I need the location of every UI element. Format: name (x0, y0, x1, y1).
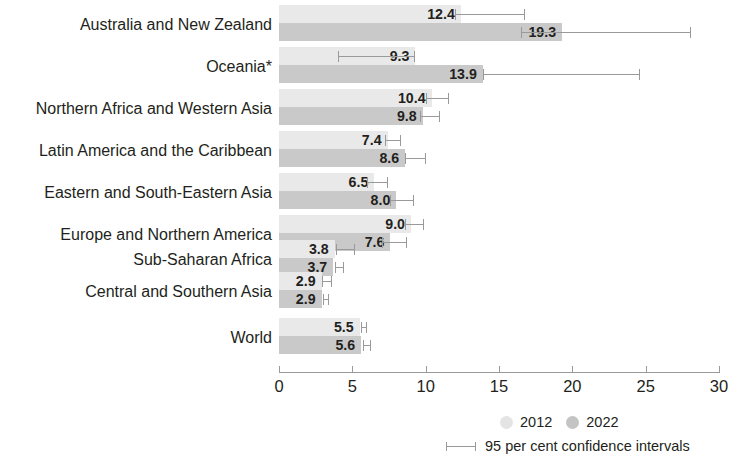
ci-cap-left (390, 195, 391, 206)
axis-tick (426, 366, 427, 373)
confidence-interval-2012 (367, 177, 388, 188)
ci-cap-right (354, 244, 355, 255)
bar-value-label: 12.4 (279, 5, 455, 23)
ci-cap-right (448, 93, 449, 104)
axis-tick-label: 15 (490, 377, 508, 396)
legend-swatch-2022-icon (566, 416, 579, 429)
category-label: Sub-Saharan Africa (0, 251, 272, 269)
confidence-interval-2022 (382, 237, 407, 248)
ci-line (446, 446, 476, 447)
ci-line (385, 140, 401, 141)
ci-cap-left (446, 442, 447, 451)
confidence-interval-2012 (338, 51, 416, 62)
confidence-interval-2022 (420, 111, 441, 122)
ci-cap-left (361, 322, 362, 333)
ci-cap-right (413, 195, 414, 206)
ci-cap-right (406, 237, 407, 248)
ci-line (336, 249, 355, 250)
legend-swatch-2012-icon (500, 416, 513, 429)
legend-item-2012[interactable]: 2012 (500, 414, 552, 430)
ci-cap-left (483, 69, 484, 80)
axis-tick-label: 20 (563, 377, 581, 396)
ci-cap-right (366, 322, 367, 333)
confidence-interval-2022 (390, 195, 413, 206)
axis-tick-label: 30 (710, 377, 728, 396)
axis-tick (279, 366, 280, 373)
ci-cap-right (387, 177, 388, 188)
ci-cap-right (439, 111, 440, 122)
ci-line (420, 116, 441, 117)
ci-cap-left (405, 219, 406, 230)
confidence-interval-2022 (363, 340, 372, 351)
bar-value-label: 3.8 (279, 240, 329, 258)
confidence-interval-2012 (322, 276, 332, 287)
confidence-interval-2022 (483, 69, 640, 80)
confidence-interval-2012 (405, 219, 424, 230)
ci-cap-left (426, 93, 427, 104)
confidence-interval-2012 (361, 322, 367, 333)
confidence-interval-icon (446, 441, 476, 452)
ci-cap-right (331, 276, 332, 287)
axis-tick-label: 10 (416, 377, 434, 396)
confidence-interval-2022 (335, 262, 344, 273)
ci-cap-right (425, 153, 426, 164)
ci-cap-left (335, 262, 336, 273)
confidence-interval-2012 (426, 93, 449, 104)
legend-label-2012: 2012 (520, 414, 552, 430)
confidence-interval-2012 (336, 244, 355, 255)
ci-cap-right (690, 27, 691, 38)
bar-value-label: 19.3 (279, 23, 556, 41)
ci-cap-left (521, 27, 522, 38)
ci-cap-left (363, 340, 364, 351)
ci-cap-right (524, 9, 525, 20)
ci-cap-left (336, 244, 337, 255)
axis-tick (352, 366, 353, 373)
category-label: Oceania* (0, 58, 272, 76)
ci-line (426, 98, 449, 99)
bar-value-label: 2.9 (279, 272, 316, 290)
bar-value-label: 6.5 (279, 173, 368, 191)
ci-cap-right (639, 69, 640, 80)
legend-label-2022: 2022 (586, 414, 618, 430)
ci-cap-left (322, 276, 323, 287)
ci-cap-left (323, 294, 324, 305)
confidence-interval-2012 (455, 9, 525, 20)
plot-area: 12.419.39.313.910.49.87.48.66.58.09.07.6… (279, 0, 730, 462)
category-label: Eastern and South-Eastern Asia (0, 184, 272, 202)
ci-cap-right (475, 442, 476, 451)
confidence-interval-label: 95 per cent confidence intervals (485, 438, 690, 454)
axis-tick-label: 5 (348, 377, 357, 396)
bar-value-label: 5.5 (279, 318, 354, 336)
legend: 2012 2022 (500, 412, 619, 432)
bar-value-label: 5.6 (279, 336, 355, 354)
bar-value-label: 13.9 (279, 65, 477, 83)
bar-value-label: 9.0 (279, 215, 405, 233)
ci-line (338, 56, 416, 57)
ci-cap-right (328, 294, 329, 305)
category-label: Europe and Northern America (0, 226, 272, 244)
axis-tick (646, 366, 647, 373)
x-axis: 051015202530 (279, 372, 719, 402)
ci-cap-left (455, 9, 456, 20)
ci-line (483, 74, 640, 75)
bar-value-label: 9.8 (279, 107, 417, 125)
ci-line (455, 14, 525, 15)
axis-tick (499, 366, 500, 373)
ci-line (405, 224, 424, 225)
category-label: Northern Africa and Western Asia (0, 100, 272, 118)
bar-value-label: 2.9 (279, 290, 316, 308)
ci-cap-right (370, 340, 371, 351)
bar-value-label: 10.4 (279, 89, 426, 107)
legend-item-2022[interactable]: 2022 (566, 414, 618, 430)
confidence-interval-2012 (385, 135, 401, 146)
ci-cap-right (400, 135, 401, 146)
ci-line (367, 182, 388, 183)
category-label: Central and Southern Asia (0, 283, 272, 301)
ci-cap-left (385, 135, 386, 146)
axis-tick-label: 0 (274, 377, 283, 396)
ci-cap-left (367, 177, 368, 188)
ci-cap-left (420, 111, 421, 122)
category-label: World (0, 329, 272, 347)
bar-chart: Australia and New ZealandOceania*Norther… (0, 0, 730, 462)
ci-line (521, 32, 691, 33)
